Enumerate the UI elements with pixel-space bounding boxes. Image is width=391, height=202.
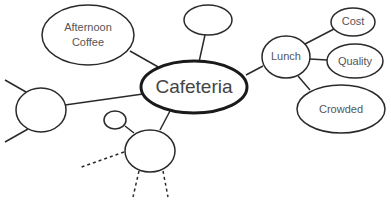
node-top-blank	[184, 5, 232, 35]
edge-lunch-quality	[310, 59, 327, 60]
edge-cafeteria-top-blank	[199, 35, 205, 62]
node-label: Coffee	[72, 36, 104, 48]
node-cost: Cost	[331, 8, 375, 36]
edge-left-blank-outer-2	[5, 129, 28, 142]
edge-left-blank-outer-1	[5, 80, 26, 92]
node-label: Quality	[338, 55, 373, 67]
node-label: Cost	[342, 15, 365, 27]
dashed-edge-1	[79, 152, 124, 168]
node-bottom-blank	[125, 130, 175, 172]
edge-lunch-cost	[305, 29, 334, 44]
edge-lunch-crowded	[298, 76, 310, 90]
edge-cafeteria-afternoon-coffee	[130, 51, 160, 68]
central-label: Cafeteria	[155, 76, 233, 97]
edge-cafeteria-left-blank	[65, 94, 143, 105]
edge-cafeteria-bottom-blank	[160, 111, 170, 130]
node-cafeteria-central: Cafeteria	[141, 61, 247, 113]
mind-map-diagram: Afternoon Coffee Cafeteria Lunch Cost Qu…	[0, 0, 391, 202]
node-label: Crowded	[319, 103, 363, 115]
node-afternoon-coffee: Afternoon Coffee	[42, 5, 134, 65]
node-label: Lunch	[271, 50, 301, 62]
node-crowded: Crowded	[297, 85, 385, 133]
node-small-blank	[104, 111, 126, 129]
edge-cafeteria-lunch	[246, 66, 263, 75]
node-left-blank	[16, 88, 66, 132]
dashed-edge-3	[163, 171, 168, 197]
node-quality: Quality	[327, 44, 383, 78]
edge-bottom-blank-small	[125, 126, 134, 133]
node-label: Afternoon	[64, 21, 112, 33]
dashed-edge-2	[133, 171, 139, 197]
node-lunch: Lunch	[262, 36, 310, 78]
